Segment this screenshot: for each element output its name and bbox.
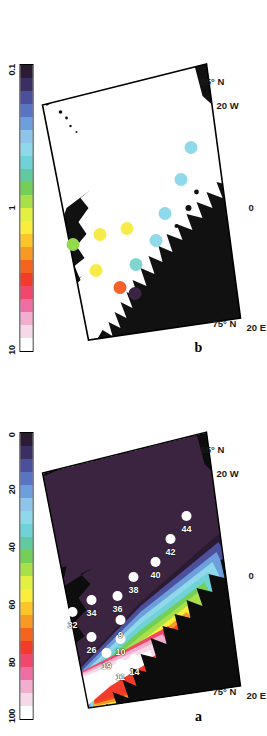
colorbar-swatch-12 [20, 182, 32, 195]
colorbar-swatch-16 [20, 130, 32, 143]
panel-b-colorbar: 10 1 0.1 [6, 64, 33, 352]
panel-a-letter: a [195, 709, 202, 725]
colorbar-swatch-14 [20, 524, 32, 537]
station-label: 44 [181, 524, 191, 534]
colorbar-swatch-12 [20, 550, 32, 563]
colorbar-swatch-11 [20, 563, 32, 576]
colorbar-swatch-1 [20, 325, 32, 338]
station-label: 36 [112, 604, 122, 614]
panel-b-label-65n: 65° N [200, 76, 224, 87]
panel-a-label-0: 0 [248, 570, 253, 581]
station-marker [101, 648, 111, 658]
colorbar-swatch-4 [20, 286, 32, 299]
figure-root: 10 1 0.1 [0, 0, 257, 736]
panel-b-colorbar-ticks: 10 1 0.1 [6, 64, 19, 352]
colorbar-swatch-15 [20, 511, 32, 524]
colorbar-swatch-9 [20, 589, 32, 602]
cbar-a-tick-0: 100 [6, 709, 16, 723]
panel-b-canvas: 10 1 0.1 [0, 0, 257, 368]
station-label: 38 [128, 585, 138, 595]
colorbar-swatch-9 [20, 221, 32, 234]
station-label: 32 [67, 620, 77, 630]
station-marker [128, 572, 138, 582]
station-label: 19 [101, 661, 111, 671]
station-marker [115, 615, 125, 625]
station-marker [149, 234, 162, 247]
station-marker [112, 591, 122, 601]
panel-a-label-65n: 65° N [200, 444, 224, 455]
station-marker [86, 633, 96, 643]
cbar-a-tick-5: 0 [6, 433, 16, 438]
colorbar-swatch-7 [20, 247, 32, 260]
station-label: 40 [150, 570, 160, 580]
panel-a-colorbar: 100 80 60 40 20 0 [6, 432, 33, 720]
station-marker [129, 654, 139, 664]
station-label: 9 [117, 631, 122, 641]
station-label: 34 [86, 608, 96, 618]
colorbar-swatch-8 [20, 234, 32, 247]
panel-a-map: 1114191092632343638404244 [36, 426, 246, 726]
colorbar-swatch-4 [20, 654, 32, 667]
colorbar-swatch-17 [20, 485, 32, 498]
station-marker [129, 258, 142, 271]
station-marker [67, 607, 77, 617]
colorbar-swatch-5 [20, 641, 32, 654]
panel-b-label-75n: 75° N [212, 318, 236, 329]
station-marker [128, 287, 141, 300]
panel-a-colorbar-strip [19, 432, 33, 720]
colorbar-swatch-7 [20, 615, 32, 628]
cbar-a-tick-2: 60 [6, 600, 16, 609]
station-marker [115, 660, 125, 670]
colorbar-swatch-10 [20, 208, 32, 221]
cbar-a-tick-4: 20 [6, 485, 16, 494]
colorbar-swatch-11 [20, 195, 32, 208]
cbar-a-tick-1: 80 [6, 658, 16, 667]
cbar-b-tick-2: 0.1 [6, 64, 16, 76]
colorbar-swatch-20 [20, 446, 32, 459]
colorbar-swatch-1 [20, 693, 32, 706]
station-marker [113, 281, 126, 294]
panel-b-colorbar-strip [19, 64, 33, 352]
colorbar-swatch-13 [20, 537, 32, 550]
station-marker [66, 238, 79, 251]
station-label: 10 [115, 647, 125, 657]
colorbar-swatch-19 [20, 459, 32, 472]
station-label: 14 [129, 667, 139, 677]
colorbar-swatch-16 [20, 498, 32, 511]
panel-a-station-dots: 1114191092632343638404244 [36, 426, 246, 726]
colorbar-swatch-5 [20, 273, 32, 286]
panel-b-station-dots [36, 58, 246, 358]
panel-b: 10 1 0.1 [0, 0, 257, 368]
colorbar-swatch-21 [20, 433, 32, 446]
station-marker [93, 229, 106, 242]
colorbar-swatch-10 [20, 576, 32, 589]
cbar-b-tick-0: 10 [6, 345, 16, 354]
panel-b-label-20e: 20 E [246, 322, 257, 333]
panel-a-colorbar-ticks: 100 80 60 40 20 0 [6, 432, 19, 720]
colorbar-swatch-21 [20, 65, 32, 78]
colorbar-swatch-18 [20, 104, 32, 117]
panel-a: 100 80 60 40 20 0 [0, 368, 257, 736]
panel-b-letter: b [194, 340, 202, 356]
panel-a-label-20w: 20 W [216, 468, 238, 479]
colorbar-swatch-2 [20, 312, 32, 325]
panel-b-label-20w: 20 W [216, 100, 238, 111]
station-marker [158, 208, 171, 221]
colorbar-swatch-8 [20, 602, 32, 615]
station-label: 11 [115, 673, 125, 683]
station-label: 26 [86, 645, 96, 655]
panel-a-canvas: 100 80 60 40 20 0 [0, 368, 257, 736]
station-marker [165, 534, 175, 544]
station-marker [150, 558, 160, 568]
panel-a-label-75n: 75° N [212, 686, 236, 697]
colorbar-swatch-0 [20, 706, 32, 719]
colorbar-swatch-2 [20, 680, 32, 693]
panel-b-map [36, 58, 246, 358]
station-label: 42 [165, 547, 175, 557]
station-marker [89, 265, 102, 278]
colorbar-swatch-20 [20, 78, 32, 91]
colorbar-swatch-3 [20, 667, 32, 680]
colorbar-swatch-6 [20, 628, 32, 641]
station-marker [181, 511, 191, 521]
panel-b-label-0: 0 [248, 202, 253, 213]
